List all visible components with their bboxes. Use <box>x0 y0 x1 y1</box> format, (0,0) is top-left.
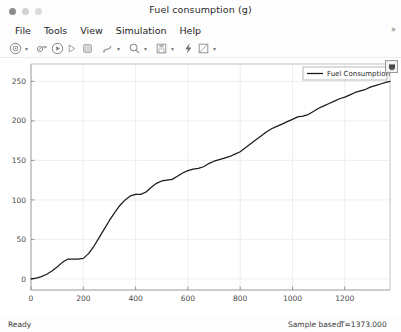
print-icon[interactable] <box>8 41 23 56</box>
status-mode-label: Sample based <box>288 320 341 329</box>
menu-help[interactable]: Help <box>173 24 208 37</box>
zoom-icon[interactable] <box>127 41 142 56</box>
plot-area[interactable]: 050100150200250020040060080010001200Fuel… <box>0 58 401 316</box>
data-cursor-icon[interactable] <box>100 41 115 56</box>
menu-file[interactable]: File <box>9 24 38 37</box>
maximize-window-button[interactable] <box>35 8 42 15</box>
stop-icon[interactable] <box>80 41 95 56</box>
close-window-button[interactable] <box>9 8 16 15</box>
save-layout-icon[interactable] <box>154 41 169 56</box>
fuel-consumption-chart[interactable]: 050100150200250020040060080010001200Fuel… <box>0 58 401 316</box>
window-controls <box>9 8 42 15</box>
svg-text:600: 600 <box>181 294 196 303</box>
chart-legend[interactable]: Fuel Consumption <box>303 67 390 80</box>
save-dropdown-caret[interactable]: ▾ <box>169 41 176 55</box>
menu-view[interactable]: View <box>74 24 110 37</box>
svg-text:200: 200 <box>76 294 91 303</box>
toolbar: ▾ <box>0 39 401 58</box>
svg-text:0: 0 <box>29 294 34 303</box>
styles-icon[interactable] <box>196 41 211 56</box>
svg-text:50: 50 <box>16 235 26 244</box>
menu-tools[interactable]: Tools <box>38 24 74 37</box>
menu-overflow-icon[interactable]: » <box>391 25 396 34</box>
svg-text:400: 400 <box>128 294 143 303</box>
svg-text:Fuel Consumption: Fuel Consumption <box>327 70 390 78</box>
highlight-signal-icon[interactable] <box>181 41 196 56</box>
maximize-axes-button[interactable] <box>385 60 398 73</box>
zoom-dropdown-caret[interactable]: ▾ <box>142 41 149 55</box>
window-title: Fuel consumption (g) <box>0 4 401 15</box>
configuration-parameters-icon[interactable] <box>35 41 50 56</box>
svg-text:150: 150 <box>12 156 27 165</box>
svg-text:800: 800 <box>233 294 248 303</box>
step-forward-icon[interactable] <box>65 41 80 56</box>
status-bar: Ready Sample based T=1373.000 <box>0 316 401 332</box>
svg-text:1000: 1000 <box>283 294 302 303</box>
svg-text:0: 0 <box>21 275 26 284</box>
styles-dropdown-caret[interactable]: ▾ <box>211 41 218 55</box>
menu-simulation[interactable]: Simulation <box>110 24 174 37</box>
minimize-window-button[interactable] <box>22 8 29 15</box>
run-icon[interactable] <box>50 41 65 56</box>
status-ready-label: Ready <box>8 320 31 329</box>
print-dropdown-caret[interactable]: ▾ <box>23 41 30 55</box>
svg-text:200: 200 <box>12 116 27 125</box>
svg-text:250: 250 <box>12 77 27 86</box>
data-cursor-dropdown-caret[interactable]: ▾ <box>115 41 122 55</box>
title-bar: Fuel consumption (g) <box>0 0 401 22</box>
status-time-label: T=1373.000 <box>340 320 387 329</box>
svg-text:100: 100 <box>12 196 27 205</box>
menu-bar: File Tools View Simulation Help » <box>0 22 401 39</box>
svg-text:1200: 1200 <box>335 294 354 303</box>
